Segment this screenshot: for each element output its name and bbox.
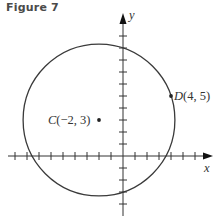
x-axis-arrow-icon: [203, 153, 213, 160]
coordinate-plane: x y C(−2, 3) D(4, 5): [0, 0, 218, 222]
point-d-label: D(4, 5): [173, 89, 210, 103]
x-axis: [8, 152, 213, 160]
y-axis-arrow-icon: [120, 13, 127, 24]
point-c-label: C(−2, 3): [48, 113, 90, 127]
y-axis: [119, 13, 127, 216]
y-axis-label: y: [127, 8, 135, 22]
x-axis-label: x: [203, 161, 210, 175]
point-c-dot: [97, 118, 101, 122]
point-d-dot: [169, 94, 173, 98]
